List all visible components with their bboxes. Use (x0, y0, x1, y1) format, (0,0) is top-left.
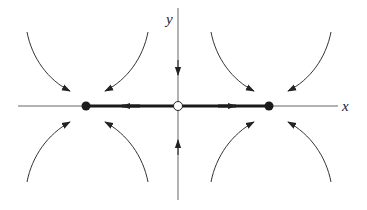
phase-portrait: x y (0, 0, 367, 210)
right-stable-node (265, 102, 274, 111)
left-stable-node (82, 102, 91, 111)
trajectory-left-upper-right (105, 32, 148, 91)
origin-saddle (174, 102, 183, 111)
trajectory-left-lower-left (27, 122, 70, 182)
trajectory-right-upper-left (211, 32, 254, 91)
trajectory-left-lower-right (105, 122, 148, 182)
trajectory-left-upper-left (27, 32, 70, 91)
trajectory-right-lower-right (288, 122, 331, 182)
trajectory-right-upper-right (288, 32, 331, 91)
y-axis-label: y (164, 11, 173, 27)
trajectory-right-lower-left (211, 122, 254, 182)
x-axis-label: x (341, 98, 349, 114)
